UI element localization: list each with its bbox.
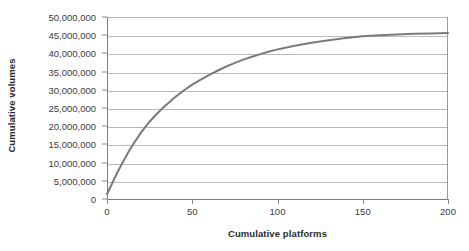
- y-tick-label: 35,000,000: [48, 66, 96, 77]
- x-tick-label: 200: [440, 206, 456, 217]
- y-tick-mark: [102, 126, 107, 127]
- y-tick-label: 45,000,000: [48, 30, 96, 41]
- y-tick-mark: [102, 144, 107, 145]
- x-tick-mark: [363, 199, 364, 204]
- x-tick-mark: [192, 199, 193, 204]
- y-tick-mark: [102, 35, 107, 36]
- y-tick-label: 25,000,000: [48, 103, 96, 114]
- y-tick-mark: [102, 162, 107, 163]
- x-tick-mark: [278, 199, 279, 204]
- y-tick-label: 20,000,000: [48, 121, 96, 132]
- y-tick-label: 30,000,000: [48, 84, 96, 95]
- y-tick-label: 15,000,000: [48, 139, 96, 150]
- y-tick-label: 0: [91, 194, 96, 205]
- x-tick-mark: [448, 199, 449, 204]
- series-line-cumulative-volumes: [107, 17, 448, 200]
- x-tick-mark: [107, 199, 108, 204]
- x-tick-label: 150: [355, 206, 371, 217]
- x-axis-title: Cumulative platforms: [107, 228, 448, 239]
- y-tick-mark: [102, 89, 107, 90]
- x-axis-tick-labels: 050100150200: [0, 206, 469, 222]
- chart-figure: Cumulative volumes 05,000,00010,000,0001…: [0, 0, 469, 251]
- x-tick-label: 50: [187, 206, 198, 217]
- y-tick-label: 50,000,000: [48, 12, 96, 23]
- y-tick-label: 40,000,000: [48, 48, 96, 59]
- y-tick-mark: [102, 17, 107, 18]
- y-axis-title: Cumulative volumes: [0, 0, 22, 210]
- x-tick-label: 100: [270, 206, 286, 217]
- y-tick-mark: [102, 180, 107, 181]
- y-tick-label: 10,000,000: [48, 157, 96, 168]
- y-tick-mark: [102, 53, 107, 54]
- x-tick-label: 0: [104, 206, 109, 217]
- y-axis-title-text: Cumulative volumes: [6, 58, 17, 152]
- y-tick-label: 5,000,000: [54, 175, 96, 186]
- y-tick-mark: [102, 71, 107, 72]
- y-tick-mark: [102, 108, 107, 109]
